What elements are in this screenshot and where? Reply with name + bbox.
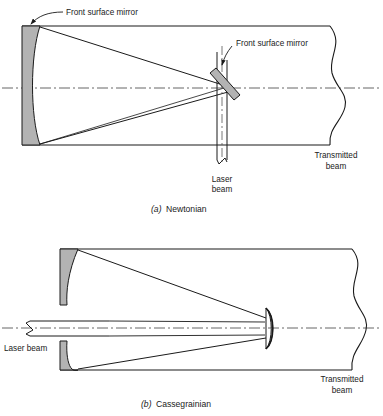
ray-upper-a [40,27,226,86]
label-front-surface-mirror-primary-a: Front surface mirror [66,8,138,17]
secondary-mirror-b [266,308,273,349]
label-transmitted-line1-b: Transmitted [321,375,364,384]
primary-mirror-upper-b [60,249,78,305]
label-laser-line1-a: Laser [212,175,233,184]
label-transmitted-line2-a: beam [326,162,347,171]
primary-mirror-lower-b [60,341,78,371]
ray-lower-inner-a [40,88,224,144]
break-line-b [352,249,367,370]
laser-tube-break-b [26,321,33,336]
label-transmitted-line1-a: Transmitted [315,151,358,160]
caption-b: (b) Cassegrainian [141,399,211,409]
beam-inner-bottom-b [109,335,265,336]
ray-lower-b [78,338,266,369]
caption-text-a: Newtonian [166,204,207,214]
diagram-svg: Front surface mirror Front surface mirro… [0,0,383,416]
panel-newtonian: Front surface mirror Front surface mirro… [2,8,381,214]
caption-marker-b: (b) [141,399,152,409]
ray-lower-a [40,92,228,144]
label-laser-line2-a: beam [212,185,233,194]
label-laser-beam-b: Laser beam [4,344,47,353]
label-transmitted-line2-b: beam [332,386,353,395]
caption-marker-a: (a) [151,204,162,214]
caption-a: (a) Newtonian [151,204,207,214]
ray-upper-b [78,250,266,318]
label-front-surface-mirror-secondary-a: Front surface mirror [236,39,308,48]
caption-text-b: Cassegrainian [156,399,211,409]
beam-inner-top-b [109,321,265,322]
break-line-a [330,26,346,145]
secondary-mirror-a [210,68,240,100]
panel-cassegrainian: Laser beam Transmitted beam (b) Cassegra… [2,249,381,409]
leader-primary-mirror-a [31,12,63,24]
optical-diagram-figure: Front surface mirror Front surface mirro… [0,0,383,416]
primary-mirror-a [22,26,40,145]
